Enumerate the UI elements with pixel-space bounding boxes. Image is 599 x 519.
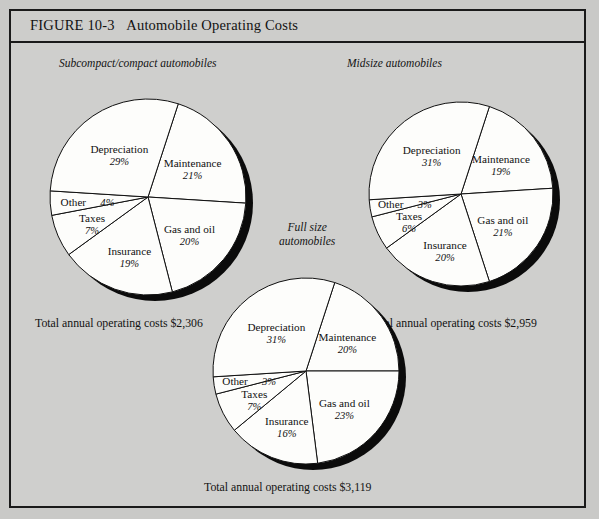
page-title: FIGURE 10-3 Automobile Operating Costs	[30, 17, 298, 34]
slice-pct-label: 31%	[421, 157, 442, 168]
slice-name-label: Maintenance	[472, 153, 530, 165]
slice-pct-label: 29%	[110, 156, 130, 167]
slice-name-label: Taxes	[79, 212, 105, 224]
slice-name-label: Depreciation	[247, 321, 305, 333]
slice-name-label: Gas and oil	[164, 223, 215, 235]
slice-name-label: Insurance	[108, 245, 152, 257]
slice-pct-label: 20%	[180, 236, 200, 247]
slice-pct-label: 20%	[338, 344, 358, 355]
slice-name-label: Other	[378, 198, 404, 210]
slice-name-label: Maintenance	[318, 331, 376, 343]
total-caption-fullsize: Total annual operating costs $3,119	[204, 480, 371, 495]
slice-pct-label: 16%	[277, 428, 297, 439]
slice-pct-label: 20%	[435, 252, 455, 263]
title-spacer	[115, 17, 126, 33]
slice-name-label: Gas and oil	[477, 214, 528, 226]
slice-name-label: Depreciation	[403, 144, 461, 156]
slice-pct-label: 21%	[493, 227, 513, 238]
slice-pct-label: 19%	[120, 258, 140, 269]
slice-pct-label: 23%	[335, 410, 355, 421]
charts-plot-area: Subcompact/compact automobiles Maintenan…	[11, 43, 584, 506]
slice-pct-label: 6%	[402, 223, 416, 234]
figure-title: Automobile Operating Costs	[126, 17, 298, 33]
figure-title-bar: FIGURE 10-3 Automobile Operating Costs	[11, 11, 584, 43]
slice-name-label: Gas and oil	[319, 397, 370, 409]
slice-pct-label: 7%	[247, 401, 261, 412]
slice-pct-label: 21%	[183, 170, 203, 181]
slice-name-label: Taxes	[241, 388, 267, 400]
slice-pct-label: 4%	[100, 197, 114, 208]
slice-pct-label: 3%	[417, 199, 432, 210]
slice-pct-label: 7%	[85, 225, 99, 236]
slice-name-label: Insurance	[423, 239, 467, 251]
pie-chart-fullsize: Maintenance20%Gas and oil23%Insurance16%…	[211, 268, 411, 468]
slice-name-label: Other	[61, 196, 87, 208]
chart-label-subcompact: Subcompact/compact automobiles	[59, 57, 216, 71]
pie-svg-fullsize: Maintenance20%Gas and oil23%Insurance16%…	[211, 268, 411, 468]
slice-pct-label: 19%	[491, 166, 511, 177]
figure-frame: FIGURE 10-3 Automobile Operating Costs S…	[9, 9, 586, 508]
slice-name-label: Maintenance	[164, 157, 222, 169]
slice-name-label: Insurance	[265, 415, 309, 427]
slice-name-label: Depreciation	[90, 143, 148, 155]
chart-label-midsize: Midsize automobiles	[347, 57, 442, 71]
total-caption-subcompact: Total annual operating costs $2,306	[35, 316, 203, 331]
figure-number: FIGURE 10-3	[30, 17, 115, 33]
slice-pct-label: 31%	[266, 334, 287, 345]
chart-label-fullsize-text: Full sizeautomobiles	[279, 221, 335, 248]
chart-label-fullsize: Full sizeautomobiles	[279, 221, 335, 248]
slice-name-label: Other	[222, 375, 248, 387]
slice-name-label: Taxes	[396, 210, 422, 222]
slice-pct-label: 3%	[261, 376, 276, 387]
